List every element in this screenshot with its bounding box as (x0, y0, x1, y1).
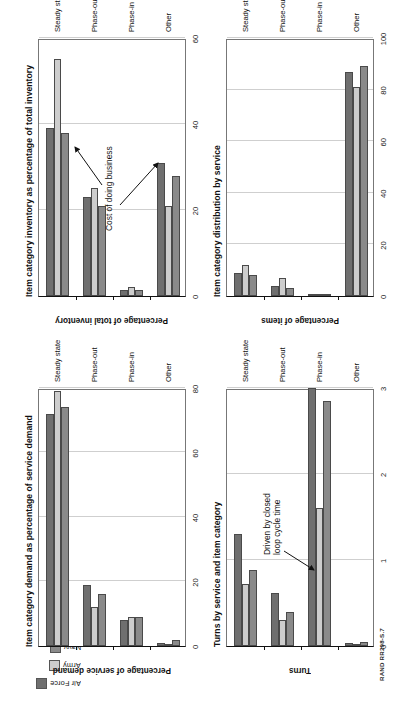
bar (345, 72, 353, 296)
category-tick (150, 296, 151, 300)
category-tick (338, 296, 339, 300)
category-label: Phase-out (89, 0, 98, 32)
value-axis-tick-label: 100 (379, 33, 388, 46)
category-label: Other (163, 13, 172, 32)
bar (83, 585, 91, 646)
bar (135, 617, 143, 646)
category-label: Phase-out (277, 347, 286, 382)
category-label: Other (351, 13, 360, 32)
value-axis-tick-label: 3 (379, 387, 388, 391)
bar (286, 288, 294, 296)
bar (345, 643, 353, 646)
chart-title: Item category distribution by service (212, 145, 222, 297)
bar (120, 290, 128, 296)
gridline (39, 387, 185, 388)
bar (54, 391, 62, 646)
bar (353, 644, 361, 646)
category-label: Steady state (52, 0, 61, 32)
value-axis-tick-label: 1 (379, 559, 388, 563)
value-axis-tick-label: 0 (191, 295, 200, 299)
bar (128, 617, 136, 646)
value-axis-tick-label: 40 (191, 514, 200, 522)
value-axis-tick-label: 20 (191, 207, 200, 215)
category-label: Phase-in (314, 2, 323, 32)
gridline (227, 473, 373, 474)
category-label: Steady state (52, 340, 61, 382)
bar (271, 286, 279, 296)
bar (360, 642, 368, 646)
value-axis-tick-label: 20 (379, 241, 388, 249)
axis-title: Percentage of total inventory (38, 316, 186, 325)
bar (249, 570, 257, 646)
bar (128, 287, 136, 296)
bar (279, 620, 287, 646)
bar (308, 294, 316, 296)
axis-title: Percentage of items (226, 316, 374, 325)
chart-panel-demand: Item category demand as percentage of se… (24, 383, 206, 681)
bar (120, 620, 128, 646)
category-tick (264, 646, 265, 650)
value-axis-tick-label: 0 (379, 295, 388, 299)
gridline (39, 37, 185, 38)
annotation-arrow-icon (284, 503, 344, 573)
value-axis-tick-label: 0 (191, 645, 200, 649)
bar (249, 275, 257, 296)
category-label: Other (351, 363, 360, 382)
gridline (227, 37, 373, 38)
category-label: Phase-out (277, 0, 286, 32)
figure-page: Air ForceArmyNavy Turns by service and i… (0, 0, 397, 701)
value-axis-tick-label: 20 (191, 578, 200, 586)
value-axis-tick-label: 40 (379, 190, 388, 198)
bar (46, 414, 54, 646)
category-label: Phase-in (126, 352, 135, 382)
value-axis-tick-label: 60 (191, 449, 200, 457)
bar (234, 273, 242, 296)
bar (323, 294, 331, 296)
annotation-arrows-icon (58, 41, 178, 241)
bar (279, 278, 287, 296)
value-axis-tick-label: 2 (379, 473, 388, 477)
bar (316, 294, 324, 296)
category-label: Phase-out (89, 347, 98, 382)
chart-title: Item category demand as percentage of se… (24, 415, 34, 647)
category-label: Steady state (240, 340, 249, 382)
gridline (227, 387, 373, 388)
axis-title: Turns (226, 666, 374, 675)
bar (135, 290, 143, 296)
category-tick (301, 296, 302, 300)
chart-panel-distribution: Item category distribution by serviceSte… (212, 33, 394, 331)
chart-title: Turns by service and item category (212, 502, 222, 647)
category-tick (150, 646, 151, 650)
category-tick (113, 296, 114, 300)
bar (242, 265, 250, 296)
bar (172, 640, 180, 646)
category-tick (301, 646, 302, 650)
rotated-figure-wrapper: Air ForceArmyNavy Turns by service and i… (0, 0, 397, 701)
bar (61, 407, 69, 646)
category-label: Other (163, 363, 172, 382)
category-label: Steady state (240, 0, 249, 32)
bar (360, 66, 368, 296)
category-tick (76, 646, 77, 650)
bar (98, 594, 106, 646)
axis-title: Percentage of service demand (38, 666, 186, 675)
bar (234, 534, 242, 646)
figure-canvas: Air ForceArmyNavy Turns by service and i… (0, 0, 397, 701)
bar (91, 607, 99, 646)
value-axis-tick-label: 60 (191, 35, 200, 43)
category-label: Phase-in (314, 352, 323, 382)
value-axis-tick-label: 80 (379, 86, 388, 94)
bar (165, 644, 173, 646)
bar (242, 584, 250, 646)
value-axis-tick-label: 80 (191, 385, 200, 393)
category-tick (113, 646, 114, 650)
category-tick (76, 296, 77, 300)
chart-title: Item category inventory as percentage of… (24, 65, 34, 297)
annotation-driven-by-closed-loop: Driven by closed loop cycle time (262, 493, 283, 555)
category-label: Phase-in (126, 2, 135, 32)
plot-area (38, 389, 186, 647)
category-tick (338, 646, 339, 650)
bar (46, 128, 54, 296)
plot-area (226, 39, 374, 297)
bar (286, 612, 294, 646)
